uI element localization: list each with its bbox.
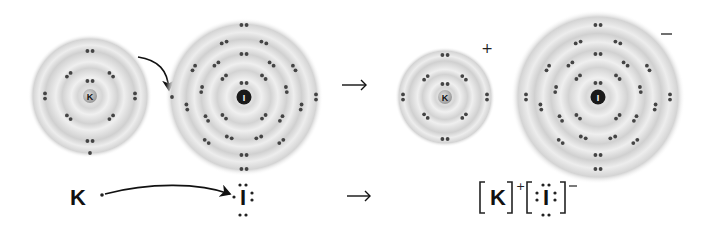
electron — [654, 103, 658, 107]
electron — [217, 61, 221, 65]
electron — [65, 114, 69, 118]
iodide-ion: I — [511, 10, 685, 184]
electron — [638, 85, 642, 89]
electron — [635, 138, 639, 142]
electron — [578, 74, 582, 78]
electron — [225, 135, 229, 139]
electron — [668, 98, 672, 102]
electron — [86, 139, 90, 143]
lewis-iodide-ion-symbol: I — [543, 185, 549, 210]
electron — [230, 136, 234, 140]
electron — [264, 42, 268, 46]
electron — [240, 153, 244, 157]
lewis-potassium-ion-symbol: K — [490, 185, 506, 210]
electron — [441, 53, 445, 57]
electron — [599, 153, 603, 157]
electron — [554, 85, 558, 89]
electron — [539, 108, 543, 112]
electron — [618, 77, 622, 81]
electron — [91, 79, 95, 83]
potassium-ion-nucleus-label: K — [442, 93, 449, 103]
electron — [245, 167, 249, 171]
electron — [560, 119, 564, 123]
lewis-iodine-symbol: I — [240, 185, 246, 210]
electron — [285, 90, 289, 94]
electron — [618, 113, 622, 117]
electron — [579, 40, 583, 44]
electron — [86, 79, 90, 83]
electron — [401, 93, 405, 97]
electron — [668, 93, 672, 97]
electron — [260, 74, 264, 78]
electron — [558, 114, 562, 118]
lewis-transfer-arrow — [105, 185, 230, 194]
electron — [635, 114, 639, 118]
electron — [264, 77, 268, 81]
electron — [594, 167, 598, 171]
electron — [614, 117, 618, 121]
electron — [225, 40, 229, 44]
electron — [446, 53, 450, 57]
electron — [259, 135, 263, 139]
potassium-atom: K — [28, 34, 152, 158]
electron — [460, 116, 464, 120]
electron — [260, 40, 264, 44]
electron — [464, 112, 468, 116]
electron — [203, 138, 207, 142]
electron — [91, 139, 95, 143]
electron — [464, 78, 468, 82]
iodide-ion-nucleus-label: I — [597, 93, 600, 103]
electron — [91, 49, 95, 53]
electron — [485, 93, 489, 97]
electron — [446, 82, 450, 86]
electron — [622, 61, 626, 65]
electron — [220, 42, 224, 46]
electron — [460, 74, 464, 78]
electron — [254, 136, 258, 140]
electron — [553, 90, 557, 94]
electron — [639, 90, 643, 94]
electron — [207, 141, 211, 145]
electron — [213, 64, 217, 68]
electron — [567, 64, 571, 68]
electron — [599, 52, 603, 56]
electron — [401, 98, 405, 102]
electron — [524, 93, 528, 97]
reaction-arrow-bottom — [347, 191, 370, 201]
electron — [547, 64, 551, 68]
electron — [264, 113, 268, 117]
electron — [193, 64, 197, 68]
electron — [485, 98, 489, 102]
electron — [185, 103, 189, 107]
electron — [108, 117, 112, 121]
potassium-nucleus-label: K — [87, 92, 94, 102]
electron — [245, 23, 249, 27]
electron — [268, 61, 272, 65]
electron — [111, 114, 115, 118]
electron — [422, 78, 426, 82]
electron — [65, 75, 69, 79]
reaction-arrow-top — [342, 80, 366, 90]
electron — [626, 64, 630, 68]
electron — [278, 119, 282, 123]
electron — [221, 113, 225, 117]
electron — [594, 81, 598, 85]
electron — [614, 74, 618, 78]
electron — [240, 81, 244, 85]
electron — [571, 61, 575, 65]
electron — [240, 167, 244, 171]
electron — [614, 40, 618, 44]
electron — [632, 119, 636, 123]
electron — [441, 82, 445, 86]
diagram-canvas: K I K + I K I — [0, 0, 702, 233]
lewis-products: K + I — [480, 180, 577, 217]
electron — [281, 138, 285, 142]
electron — [291, 64, 295, 68]
electron — [133, 92, 137, 96]
electron — [245, 52, 249, 56]
electron — [631, 141, 635, 145]
electron — [133, 97, 137, 101]
lewis-potassium-symbol: K — [70, 185, 86, 210]
electron — [86, 49, 90, 53]
k-right-bracket — [507, 182, 512, 213]
